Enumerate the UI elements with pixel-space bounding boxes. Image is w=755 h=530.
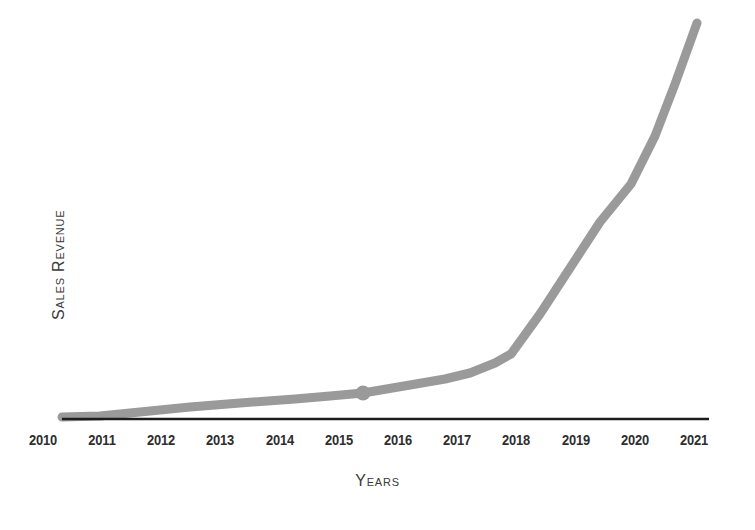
x-tick-2018: 2018 xyxy=(492,431,540,448)
x-tick-2013: 2013 xyxy=(196,431,244,448)
x-tick-2012: 2012 xyxy=(137,431,185,448)
x-tick-2015: 2015 xyxy=(315,431,363,448)
x-tick-2019: 2019 xyxy=(552,431,600,448)
line-chart: Sales Revenue 2010 2011 2012 2013 2014 2… xyxy=(0,0,755,530)
data-point-marker-2015 xyxy=(356,386,371,401)
x-axis-tick-labels: 2010 2011 2012 2013 2014 2015 2016 2017 … xyxy=(0,431,755,455)
x-tick-2010: 2010 xyxy=(19,431,67,448)
x-axis-title: Years xyxy=(0,472,755,490)
x-tick-2014: 2014 xyxy=(256,431,304,448)
x-tick-2020: 2020 xyxy=(611,431,659,448)
x-tick-2017: 2017 xyxy=(433,431,481,448)
x-tick-2021: 2021 xyxy=(670,431,718,448)
x-tick-2016: 2016 xyxy=(374,431,422,448)
x-tick-2011: 2011 xyxy=(78,431,126,448)
